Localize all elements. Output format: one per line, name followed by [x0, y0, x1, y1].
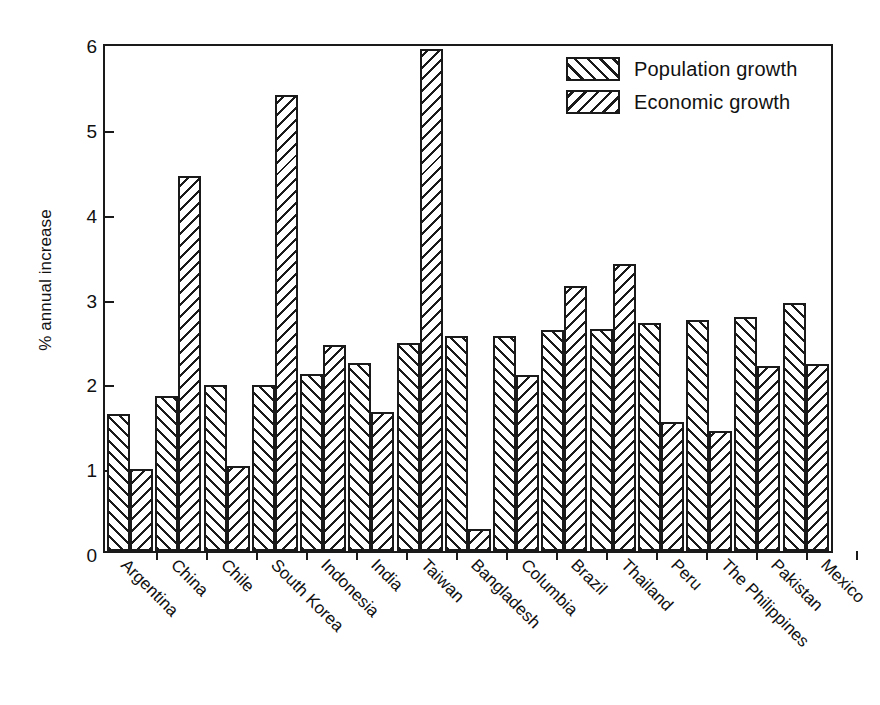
- bar-economic-growth[interactable]: [323, 345, 346, 551]
- x-axis-label: Chile: [218, 556, 257, 595]
- bar-economic-growth[interactable]: [661, 422, 684, 551]
- y-tick-label: 3: [86, 291, 97, 310]
- bar-group: [686, 46, 732, 551]
- bar-population-growth[interactable]: [300, 374, 323, 551]
- bar-economic-growth[interactable]: [757, 366, 780, 551]
- x-axis-labels: ArgentinaChinaChileSouth KoreaIndonesiaI…: [103, 556, 843, 705]
- bar-group: [397, 46, 443, 551]
- bar-economic-growth[interactable]: [275, 95, 298, 551]
- bar-population-growth[interactable]: [638, 323, 661, 551]
- bar-group: [204, 46, 250, 551]
- x-axis-label: The Philippines: [718, 556, 812, 650]
- bar-group: [590, 46, 636, 551]
- bar-economic-growth[interactable]: [806, 364, 829, 551]
- bar-economic-growth[interactable]: [709, 431, 732, 551]
- bar-group: [107, 46, 153, 551]
- x-axis-label: Mexico: [818, 556, 868, 606]
- x-axis-label: China: [168, 556, 211, 599]
- x-axis-label: India: [368, 556, 406, 594]
- bar-group: [734, 46, 780, 551]
- x-axis-label: Taiwan: [418, 556, 467, 605]
- bar-population-growth[interactable]: [204, 385, 227, 551]
- bar-series-container: [105, 46, 831, 551]
- bar-group: [638, 46, 684, 551]
- bar-economic-growth[interactable]: [613, 264, 636, 551]
- x-axis-label: Brazil: [568, 556, 610, 598]
- plot-area: 0123456: [103, 44, 833, 553]
- y-tick-label: 1: [86, 461, 97, 480]
- y-tick-label: 6: [86, 37, 97, 56]
- bar-economic-growth[interactable]: [564, 286, 587, 551]
- bar-population-growth[interactable]: [590, 329, 613, 551]
- bar-group: [348, 46, 394, 551]
- bar-population-growth[interactable]: [348, 363, 371, 551]
- x-tick-mark: [856, 551, 858, 560]
- bar-population-growth[interactable]: [686, 320, 709, 551]
- y-tick-label: 5: [86, 121, 97, 140]
- bar-population-growth[interactable]: [252, 385, 275, 551]
- bar-population-growth[interactable]: [493, 336, 516, 551]
- bar-group: [783, 46, 829, 551]
- bar-population-growth[interactable]: [397, 343, 420, 551]
- bar-economic-growth[interactable]: [371, 412, 394, 551]
- bar-economic-growth[interactable]: [516, 375, 539, 551]
- bar-population-growth[interactable]: [445, 336, 468, 551]
- x-axis-label: Peru: [668, 556, 705, 593]
- bar-population-growth[interactable]: [541, 330, 564, 551]
- bar-group: [493, 46, 539, 551]
- bar-group: [155, 46, 201, 551]
- legend-item[interactable]: Population growth: [566, 57, 798, 81]
- chart-figure: % annual increase 0123456 ArgentinaChina…: [0, 0, 880, 705]
- y-tick-label: 2: [86, 376, 97, 395]
- bar-group: [541, 46, 587, 551]
- bar-economic-growth[interactable]: [420, 49, 443, 551]
- legend-swatch-population-growth: [566, 57, 620, 81]
- bar-population-growth[interactable]: [783, 303, 806, 551]
- chart-legend: Population growthEconomic growth: [566, 57, 798, 114]
- bar-population-growth[interactable]: [734, 317, 757, 551]
- legend-swatch-economic-growth: [566, 90, 620, 114]
- bar-group: [445, 46, 491, 551]
- x-axis-label: Thailand: [618, 556, 676, 614]
- y-tick-label: 4: [86, 206, 97, 225]
- legend-label: Population growth: [634, 58, 798, 81]
- bar-economic-growth[interactable]: [468, 529, 491, 551]
- bar-economic-growth[interactable]: [178, 176, 201, 551]
- y-axis-title: % annual increase: [24, 0, 68, 560]
- bar-group: [300, 46, 346, 551]
- y-tick-label: 0: [86, 546, 97, 565]
- bar-economic-growth[interactable]: [130, 469, 153, 551]
- legend-item[interactable]: Economic growth: [566, 90, 798, 114]
- legend-label: Economic growth: [634, 91, 790, 114]
- bar-economic-growth[interactable]: [227, 466, 250, 551]
- bar-group: [252, 46, 298, 551]
- bar-population-growth[interactable]: [155, 396, 178, 551]
- bar-population-growth[interactable]: [107, 414, 130, 551]
